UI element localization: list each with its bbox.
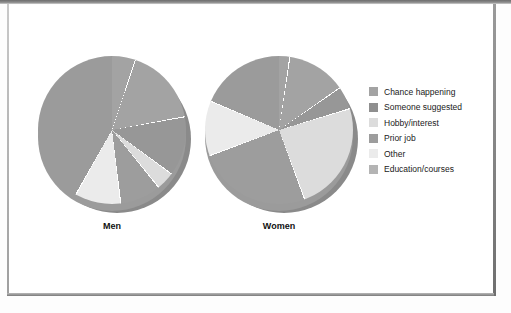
legend-label: Chance happening xyxy=(384,87,455,97)
frame-right-border xyxy=(493,4,496,296)
frame-top-border xyxy=(0,0,511,4)
pie-chart-men xyxy=(38,56,186,204)
legend-label: Education/courses xyxy=(384,164,454,174)
pie-slice-separators xyxy=(205,56,353,204)
legend-item: Other xyxy=(369,146,462,162)
legend-label: Someone suggested xyxy=(384,102,462,112)
pie-chart-women xyxy=(205,56,353,204)
legend-item: Hobby/interest xyxy=(369,115,462,131)
legend-item: Prior job xyxy=(369,131,462,147)
pie-men-label: Men xyxy=(38,221,186,231)
frame-bottom-border xyxy=(7,293,494,296)
legend-swatch-icon xyxy=(369,134,378,143)
document-page: Men Women Chance happening Someone sugge… xyxy=(0,0,511,313)
legend-item: Education/courses xyxy=(369,162,462,178)
legend-item: Someone suggested xyxy=(369,100,462,116)
pie-women-face xyxy=(205,56,353,204)
legend-swatch-icon xyxy=(369,149,378,158)
legend-swatch-icon xyxy=(369,118,378,127)
legend-swatch-icon xyxy=(369,87,378,96)
chart-legend: Chance happening Someone suggested Hobby… xyxy=(369,84,462,177)
pie-women-label: Women xyxy=(205,221,353,231)
legend-swatch-icon xyxy=(369,103,378,112)
legend-label: Prior job xyxy=(384,133,416,143)
legend-label: Other xyxy=(384,149,405,159)
legend-label: Hobby/interest xyxy=(384,118,439,128)
pie-slice-separators xyxy=(38,56,186,204)
pie-men-face xyxy=(38,56,186,204)
legend-swatch-icon xyxy=(369,165,378,174)
legend-item: Chance happening xyxy=(369,84,462,100)
